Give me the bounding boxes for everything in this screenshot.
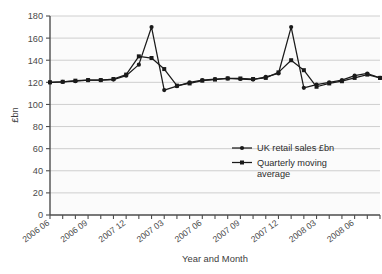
data-point — [378, 76, 382, 80]
chart-canvas: 020406080100120140160180 2006 062006 092… — [0, 0, 382, 274]
legend-marker-square — [240, 161, 244, 165]
data-point — [162, 67, 166, 71]
y-axis-tick-label: 120 — [28, 78, 43, 88]
data-point — [162, 88, 166, 92]
data-point — [149, 25, 153, 29]
data-point — [238, 76, 242, 80]
y-axis-tick-label: 40 — [33, 166, 43, 176]
data-point — [327, 81, 331, 85]
data-point — [315, 85, 319, 89]
data-point — [61, 80, 65, 84]
data-point — [200, 79, 204, 83]
y-axis-title: £bn — [9, 107, 20, 123]
y-axis-tick-label: 100 — [28, 100, 43, 110]
data-point — [73, 79, 77, 83]
legend-label-2: average — [257, 169, 290, 179]
data-point — [188, 81, 192, 85]
y-axis-tick-label: 20 — [33, 188, 43, 198]
data-point — [251, 77, 255, 81]
y-axis-tick-label: 140 — [28, 56, 43, 66]
data-point — [150, 56, 154, 60]
data-point — [340, 79, 344, 83]
data-point — [365, 73, 369, 77]
y-axis-tick-label: 160 — [28, 34, 43, 44]
retail-sales-line-chart: 020406080100120140160180 2006 062006 092… — [0, 0, 382, 274]
x-axis-title: Year and Month — [182, 253, 248, 264]
data-point — [289, 58, 293, 62]
plot-area-background — [50, 16, 380, 215]
data-point — [353, 76, 357, 80]
data-point — [302, 86, 306, 90]
data-point — [99, 78, 103, 82]
data-point — [137, 63, 141, 67]
data-point — [175, 84, 179, 88]
legend-label-1: UK retail sales £bn — [257, 143, 334, 153]
legend-label-2: Quarterly moving — [257, 158, 327, 168]
data-point — [264, 76, 268, 80]
data-point — [48, 80, 52, 84]
data-point — [226, 76, 230, 80]
y-axis-tick-label: 180 — [28, 11, 43, 21]
data-point — [86, 78, 90, 82]
data-point — [289, 25, 293, 29]
data-point — [137, 54, 141, 58]
data-point — [213, 78, 217, 82]
data-point — [124, 73, 128, 77]
data-point — [111, 77, 115, 81]
y-axis-tick-label: 80 — [33, 122, 43, 132]
legend-marker-circle — [240, 146, 244, 150]
y-axis-tick-label: 60 — [33, 144, 43, 154]
data-point — [302, 68, 306, 72]
data-point — [276, 70, 280, 74]
